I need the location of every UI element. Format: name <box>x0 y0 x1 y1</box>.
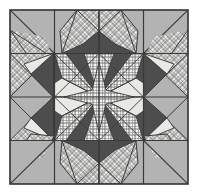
block-body <box>10 10 188 184</box>
quilt-block-svg <box>0 0 199 195</box>
cell-r1c0-lower <box>10 54 54 98</box>
cell-r1c3-lower <box>144 54 189 98</box>
quilt-block-diagram <box>0 0 199 195</box>
